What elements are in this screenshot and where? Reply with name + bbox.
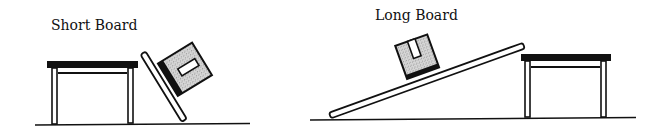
table-leg	[601, 61, 606, 117]
ground-line-left	[35, 124, 250, 126]
ground-line-right	[310, 118, 636, 121]
long-board-label: Long Board	[375, 7, 458, 23]
long-board-scene: Long Board	[310, 7, 636, 120]
table-leg	[128, 68, 133, 123]
table-left	[47, 61, 138, 124]
table-top	[47, 61, 138, 68]
short-board-label: Short Board	[51, 17, 138, 33]
table-top	[521, 54, 611, 61]
table-leg	[525, 61, 530, 117]
ramp-comparison-diagram: Short Board Long Board	[0, 0, 665, 134]
table-right	[521, 54, 611, 117]
short-board-scene: Short Board	[35, 17, 250, 125]
table-leg	[52, 68, 57, 124]
box-long-board	[395, 34, 439, 78]
